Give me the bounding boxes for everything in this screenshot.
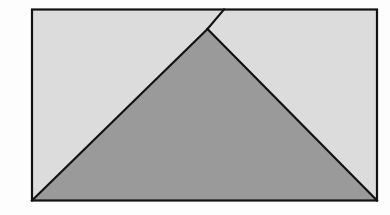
- figure-stage: [0, 0, 390, 215]
- geometry-diagram: [0, 0, 390, 215]
